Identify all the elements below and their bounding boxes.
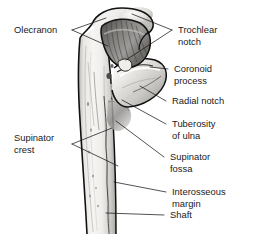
label-supinator-fossa-line1: Supinator bbox=[170, 151, 210, 162]
label-coronoid-process-line2: process bbox=[174, 75, 207, 86]
label-supinator-crest-line1: Supinator bbox=[14, 132, 54, 143]
anatomical-figure-ulna: Olecranon Supinator crest Trochlear notc… bbox=[0, 0, 253, 239]
leader-supinator-fossa bbox=[116, 121, 164, 157]
label-olecranon-line1: Olecranon bbox=[14, 24, 57, 35]
labels-left: Olecranon Supinator crest bbox=[14, 24, 57, 155]
label-shaft-line1: Shaft bbox=[170, 209, 192, 220]
label-supinator-fossa-line2: fossa bbox=[170, 163, 193, 174]
labels-right: Trochlear notch Coronoid process Radial … bbox=[170, 24, 226, 220]
label-trochlear-notch-line2: notch bbox=[178, 36, 201, 47]
label-tuberosity-of-ulna-line2: of ulna bbox=[172, 130, 201, 141]
label-coronoid-process-line1: Coronoid bbox=[174, 63, 212, 74]
label-tuberosity-of-ulna-line1: Tuberosity bbox=[172, 118, 216, 129]
ulna-illustration-svg: Olecranon Supinator crest Trochlear notc… bbox=[0, 0, 253, 239]
label-supinator-crest-line2: crest bbox=[14, 144, 35, 155]
leader-interosseous-margin bbox=[114, 182, 166, 192]
label-radial-notch-line1: Radial notch bbox=[172, 95, 224, 106]
ulna-bone-drawing bbox=[79, 5, 167, 234]
label-interosseous-margin-line1: Interosseous bbox=[172, 186, 226, 197]
label-trochlear-notch-line1: Trochlear bbox=[178, 24, 217, 35]
label-interosseous-margin-line2: margin bbox=[172, 198, 201, 209]
